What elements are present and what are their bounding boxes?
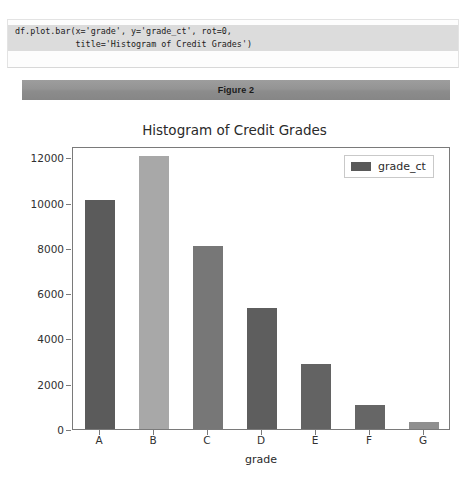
y-tick-mark-4000 (66, 339, 71, 340)
bar-D (247, 308, 277, 429)
figure-caption-banner: Figure 2 (22, 80, 450, 100)
legend-swatch-grade-ct (351, 162, 371, 171)
bar-C (193, 246, 223, 429)
y-tick-mark-2000 (66, 385, 71, 386)
bars-layer (73, 148, 449, 429)
x-tick-mark-B (153, 430, 154, 435)
x-axis-tick-labels: ABCDEFG (72, 434, 450, 452)
x-tick-mark-G (423, 430, 424, 435)
y-tick-mark-8000 (66, 249, 71, 250)
x-tick-E: E (312, 434, 319, 446)
code-line-2: title='Histogram of Credit Grades') (8, 38, 459, 51)
bar-B (139, 156, 169, 429)
x-tick-A: A (95, 434, 102, 446)
code-line-1: df.plot.bar(x='grade', y='grade_ct', rot… (8, 25, 459, 38)
x-tick-mark-E (315, 430, 316, 435)
x-tick-F: F (366, 434, 372, 446)
y-tick-mark-0 (66, 430, 71, 431)
bar-chart: Histogram of Credit Grades 0200040006000… (0, 112, 469, 478)
x-axis-title: grade (72, 453, 450, 466)
x-tick-B: B (149, 434, 156, 446)
legend-label-grade-ct: grade_ct (378, 160, 426, 173)
x-tick-D: D (257, 434, 265, 446)
code-cell[interactable]: df.plot.bar(x='grade', y='grade_ct', rot… (7, 19, 459, 68)
y-tick-mark-12000 (66, 158, 71, 159)
chart-legend: grade_ct (344, 155, 434, 178)
y-axis-tick-marks (0, 147, 72, 430)
bar-G (409, 422, 439, 429)
x-tick-C: C (203, 434, 210, 446)
plot-area (72, 147, 450, 430)
bar-F (355, 405, 385, 429)
x-tick-mark-D (261, 430, 262, 435)
x-tick-mark-F (369, 430, 370, 435)
figure-caption-label: Figure 2 (218, 85, 255, 95)
bar-E (301, 364, 331, 429)
y-tick-mark-6000 (66, 294, 71, 295)
chart-title: Histogram of Credit Grades (0, 122, 469, 138)
x-tick-mark-A (99, 430, 100, 435)
x-tick-mark-C (207, 430, 208, 435)
x-tick-G: G (419, 434, 427, 446)
bar-A (85, 200, 115, 429)
y-tick-mark-10000 (66, 204, 71, 205)
